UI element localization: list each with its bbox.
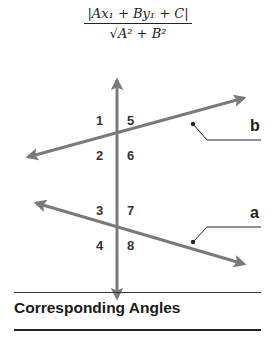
leader-a [191,227,261,244]
line-b [28,98,244,157]
angle-label-2: 2 [96,148,103,163]
angle-label-3: 3 [96,203,103,218]
caption-title: Corresponding Angles [14,299,181,317]
angle-label-7: 7 [127,203,134,218]
angle-label-4: 4 [96,238,104,253]
line-a-label: a [250,204,259,221]
bottom-rule [14,329,261,331]
angle-label-8: 8 [127,238,134,253]
line-a [36,203,244,264]
angle-label-1: 1 [96,113,103,128]
angle-label-6: 6 [127,148,134,163]
line-b-label: b [250,117,260,134]
parallel-lines-diagram: 1 5 2 6 3 7 4 8 b a [0,0,276,339]
angle-label-5: 5 [127,113,134,128]
top-rule [14,292,261,293]
